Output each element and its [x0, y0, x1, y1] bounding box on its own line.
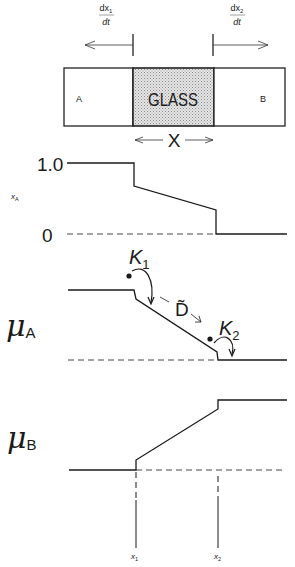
thickness-label: X [168, 130, 181, 151]
right-boundary-arrow [213, 34, 268, 56]
glass-layer-diagram: dx1 dt dx2 dt A GLASS B X xA 1.0 0 [0, 0, 295, 567]
svg-text:dt: dt [233, 17, 241, 27]
x2-label: x2 [213, 552, 221, 562]
tick-low: 0 [42, 225, 53, 246]
svg-text:dx1: dx1 [100, 3, 114, 14]
tick-high: 1.0 [37, 154, 63, 175]
material-bar: A GLASS B [64, 68, 285, 126]
svg-text:dt: dt [102, 17, 110, 27]
left-boundary-arrow [85, 34, 133, 56]
mu-b-plot: μB [7, 400, 287, 470]
xa-curve [67, 163, 287, 234]
d-label: D̃ [175, 299, 189, 320]
mu-b-curve [69, 400, 287, 470]
mu-b-axis-label: μB [7, 420, 37, 455]
glass-label: GLASS [148, 90, 198, 110]
k1-label: K1 [129, 246, 150, 272]
region-a [64, 68, 133, 126]
rate-right-label: dx2 dt [230, 3, 245, 27]
region-a-label: A [76, 94, 82, 104]
region-b-label: B [260, 94, 266, 104]
rate-left-label: dx1 dt [99, 3, 114, 27]
xa-plot: xA 1.0 0 [10, 154, 287, 246]
region-b [214, 68, 285, 126]
x1-label: x1 [130, 552, 138, 562]
mu-a-axis-label: μA [6, 308, 36, 343]
svg-text:dx2: dx2 [231, 3, 245, 14]
position-markers [136, 472, 218, 548]
xa-axis-label: xA [10, 192, 19, 202]
mu-a-plot: μA K1 D̃ K2 [6, 246, 287, 360]
